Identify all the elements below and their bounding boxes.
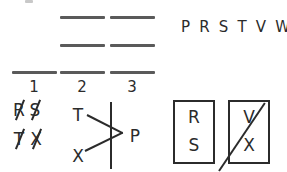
top-smudge-mark bbox=[25, 0, 33, 3]
letter-box-vx-bottom: X bbox=[240, 136, 258, 154]
blank-line-col2-row1[interactable] bbox=[60, 16, 105, 19]
column-number-2: 2 bbox=[72, 79, 92, 95]
alphabet-strip: P R S T V W X bbox=[181, 19, 287, 35]
worksheet-canvas: 1 2 3 P R S T V W X R S T X T X P R S V … bbox=[0, 0, 287, 172]
column-number-3: 3 bbox=[122, 79, 142, 95]
diagram-lower-diagonal bbox=[85, 132, 124, 152]
blank-line-col2-row3[interactable] bbox=[60, 71, 105, 74]
letter-box-rs-bottom: S bbox=[185, 136, 203, 154]
diagram-letter-p: P bbox=[127, 127, 143, 145]
column-number-1: 1 bbox=[24, 79, 44, 95]
blank-line-col1-row3[interactable] bbox=[12, 71, 57, 74]
diagram-letter-t: T bbox=[70, 106, 86, 124]
blank-line-col2-row2[interactable] bbox=[60, 44, 105, 47]
blank-line-col3-row3[interactable] bbox=[110, 71, 155, 74]
letter-box-rs-top: R bbox=[185, 108, 203, 126]
blank-line-col3-row1[interactable] bbox=[110, 16, 155, 19]
blank-line-col3-row2[interactable] bbox=[110, 44, 155, 47]
diagram-upper-diagonal bbox=[87, 114, 124, 134]
